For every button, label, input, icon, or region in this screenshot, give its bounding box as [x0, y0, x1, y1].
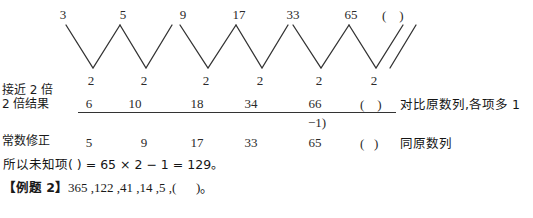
example2-sequence: 365 ,122 ,41 ,14 ,5 ,( )。: [68, 180, 213, 195]
worksheet-page: 3 5 9 17 33 65 ( ) 2 2 2 2 2 2 接近 2 倍 2 …: [0, 0, 533, 218]
option-b-key: B.: [146, 214, 158, 218]
label-approx-double: 接近 2 倍: [2, 83, 53, 97]
corrected-value-4: 33: [240, 136, 262, 150]
doubled-value-4: 34: [240, 97, 262, 111]
corrected-row-note: 同原数列: [400, 136, 452, 151]
label-constant-correction: 常数修正: [2, 134, 50, 148]
doubled-value-1: 6: [80, 97, 98, 111]
doubled-row-underline: [78, 112, 396, 113]
example2-tag: 【例题 2】: [3, 180, 68, 195]
label-double-result: 2 倍结果: [2, 97, 49, 111]
corrected-value-2: 9: [135, 136, 153, 150]
option-b[interactable]: B. 2: [133, 199, 158, 218]
option-c-key: C.: [271, 214, 283, 218]
option-a-key: A.: [15, 214, 28, 218]
difference-value-6: 2: [365, 74, 383, 88]
difference-value-5: 2: [310, 74, 328, 88]
difference-value-4: 2: [251, 74, 269, 88]
example2-line: 【例题 2】365 ,122 ,41 ,14 ,5 ,( )。: [3, 177, 213, 196]
corrected-value-3: 17: [186, 136, 208, 150]
difference-value-1: 2: [82, 74, 100, 88]
difference-value-3: 2: [197, 74, 215, 88]
conclusion-line: 所以未知项( ) = 65 × 2 − 1 = 129。: [3, 157, 224, 172]
option-d[interactable]: D. 4: [390, 199, 416, 218]
difference-value-2: 2: [135, 74, 153, 88]
doubled-value-2: 10: [124, 97, 146, 111]
corrected-value-1: 5: [80, 136, 98, 150]
option-c[interactable]: C. 3: [258, 199, 283, 218]
doubled-value-3: 18: [186, 97, 208, 111]
option-a[interactable]: A. 1: [3, 199, 28, 218]
doubled-unknown-blank[interactable]: ( ): [360, 97, 382, 113]
doubled-row-note: 对比原数列,各项多 1: [400, 97, 520, 112]
corrected-unknown-blank[interactable]: ( ): [360, 136, 378, 152]
corrected-value-5: 65: [304, 136, 326, 150]
minus-one-annotation: −1): [308, 116, 338, 130]
doubled-value-5: 66: [304, 97, 326, 111]
option-d-key: D.: [403, 214, 416, 218]
